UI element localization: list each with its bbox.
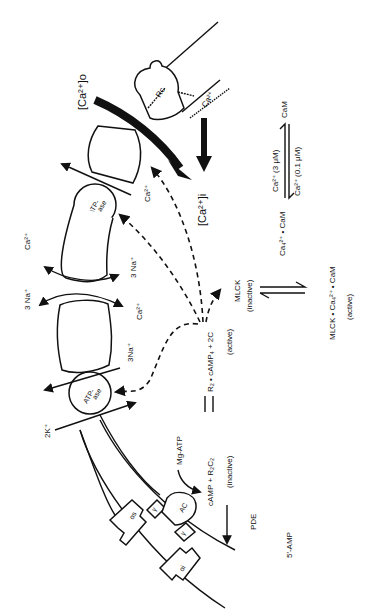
camp-equation-right: R₂ • cAMP₄ + 2C [206,332,215,392]
active-state-label: (active) [225,328,234,355]
dashed-arrow-to-mlck [206,290,220,322]
exchanger-ion-b-left: Ca²⁺ [135,303,144,320]
mlck-label: MLCK [233,279,242,302]
reverse-condition-label: Ca²⁺ (0.1 μM) [293,147,302,196]
extracellular-calcium-label: [Ca²⁺]o [76,74,88,110]
exchanger-ion-b-right: 3 Na⁺ [129,257,138,278]
mlck-complex-label: MLCK • Ca₄²⁺ • CaM [328,266,337,340]
membrane-segment-middle [57,300,111,372]
mg-atp-label: Mg-ATP [175,436,184,465]
pde-label: PDE [249,514,258,530]
channel-block-upper [88,126,140,183]
membrane-lower-outer [80,430,225,608]
g-alpha-s [110,500,146,545]
cam-label: CaM [280,101,289,118]
camp-equilibrium-arrows [205,396,213,412]
membrane-segment-lower [80,430,115,515]
5-amp-label: 5′-AMP [285,532,294,558]
camp-equation-left: cAMP + R₂C₂ [206,458,215,506]
smooth-muscle-signaling-diagram: Rc Ca²⁺ [Ca²⁺]o [Ca²⁺]i Ca²⁺ ATP- ase 3 … [0,0,365,610]
dashed-arrow-to-upper-channel [152,168,203,322]
exchanger-ion-a-right: Ca²⁺ [23,233,32,250]
mlck-equilibrium-arrows [260,282,305,298]
intracellular-calcium-label: [Ca²⁺]i [196,194,208,226]
inactive-state-label: (inactive) [225,455,234,488]
ca-cam-complex-label: Ca₄²⁺ • CaM [278,211,287,256]
mg-atp-arrow [178,470,200,492]
ca-efflux-label-upper: Ca²⁺ [143,185,152,202]
cam-equilibrium-arrows [280,124,294,198]
mlck-inactive-label: (inactive) [245,279,254,312]
na-efflux-label: 3Na⁺ [126,343,135,362]
receptor-rc: Rc [135,61,194,120]
mlck-complex-state-label: (active) [345,293,354,320]
exchanger-ion-a-left: 3 Na⁺ [23,289,32,310]
k-influx-label: 2K⁺ [43,424,52,438]
membrane-segment-upper [61,205,113,282]
g-gamma-bottom [175,523,195,541]
forward-condition-label: Ca²⁺ (3 μM) [271,149,280,192]
